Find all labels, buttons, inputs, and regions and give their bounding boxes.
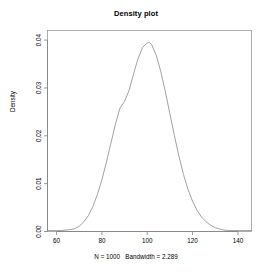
density-plot-figure: Density plot Density 6080100120140 0.000… <box>0 0 272 274</box>
x-tick-label: 100 <box>142 237 153 244</box>
x-axis-ticks: 6080100120140 <box>53 232 244 244</box>
y-tick-label: 0.04 <box>35 33 42 46</box>
x-tick-label: 80 <box>98 237 106 244</box>
y-axis-ticks: 0.000.010.020.030.04 <box>35 33 48 237</box>
plot-canvas: 6080100120140 0.000.010.020.030.04 <box>0 0 272 274</box>
density-curve <box>48 42 252 230</box>
y-tick-label: 0.01 <box>35 177 42 190</box>
plot-box-frame <box>48 31 252 232</box>
x-tick-label: 120 <box>187 237 198 244</box>
y-tick-label: 0.03 <box>35 81 42 94</box>
chart-subtitle: N = 1000 Bandwidth = 2.289 <box>0 253 272 260</box>
y-tick-label: 0.02 <box>35 129 42 142</box>
y-tick-label: 0.00 <box>35 225 42 238</box>
x-tick-label: 60 <box>53 237 61 244</box>
x-tick-label: 140 <box>233 237 244 244</box>
